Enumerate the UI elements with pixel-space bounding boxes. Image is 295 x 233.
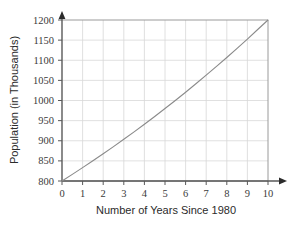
y-tick-label: 850	[38, 155, 54, 166]
population-growth-chart: 80085090095010001050110011501200 0123456…	[0, 0, 295, 233]
y-tick-label: 900	[38, 135, 54, 146]
y-axis-title: Population (in Thousands)	[8, 36, 20, 164]
x-tick-label: 7	[204, 188, 209, 199]
x-tick-label: 3	[121, 188, 126, 199]
x-tick-label: 6	[183, 188, 188, 199]
y-tick-label: 950	[38, 115, 54, 126]
x-tick-label: 5	[162, 188, 167, 199]
x-tick-label: 0	[59, 188, 64, 199]
y-tick-label: 1100	[33, 55, 54, 66]
chart-container: 80085090095010001050110011501200 0123456…	[0, 0, 295, 233]
y-tick-label: 1000	[33, 95, 54, 106]
y-tick-label: 1050	[33, 75, 54, 86]
x-tick-label: 4	[142, 188, 148, 199]
x-tick-label: 2	[101, 188, 106, 199]
y-tick-label: 1150	[33, 35, 54, 46]
x-axis-title: Number of Years Since 1980	[96, 204, 236, 216]
x-tick-label: 9	[245, 188, 250, 199]
y-tick-label: 1200	[33, 15, 54, 26]
x-tick-label: 8	[224, 188, 229, 199]
x-tick-label: 10	[263, 188, 274, 199]
y-tick-label: 800	[38, 176, 54, 187]
x-tick-label: 1	[80, 188, 85, 199]
